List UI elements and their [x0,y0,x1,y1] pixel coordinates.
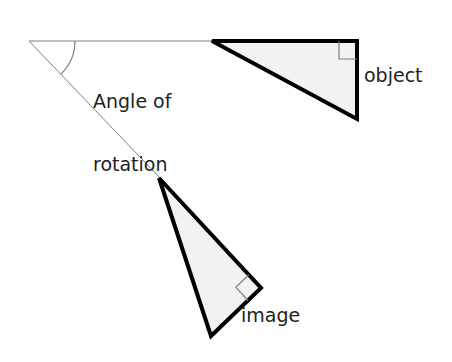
object-label: object [364,65,423,86]
object-triangle [212,41,357,119]
angle-of-rotation-line-1: Angle of [93,91,171,112]
angle-of-rotation-line-2: rotation [93,154,171,175]
angle-of-rotation-label: Angle of rotation [93,48,171,218]
rotation-diagram-canvas [0,0,452,362]
angle-arc [61,41,75,74]
image-label: image [241,305,300,326]
rotation-diagram: Angle of rotation object image [0,0,452,362]
